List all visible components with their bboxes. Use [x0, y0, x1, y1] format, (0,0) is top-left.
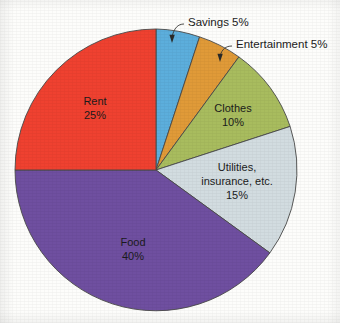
pie-label-rent-name: Rent	[83, 95, 106, 107]
pie-label-clothes-value: 10%	[222, 116, 244, 128]
pie-callout-entertainment: Entertainment 5%	[236, 38, 327, 50]
pie-label-utilities-line2: insurance, etc.	[201, 175, 273, 187]
pie-label-utilities-line1: Utilities,	[218, 161, 257, 173]
pie-callout-savings: Savings 5%	[188, 16, 249, 28]
pie-chart-svg: Rent 25% Clothes 10% Utilities, insuranc…	[0, 0, 340, 323]
pie-chart-figure: Rent 25% Clothes 10% Utilities, insuranc…	[0, 0, 340, 323]
pie-label-utilities-value: 15%	[226, 189, 248, 201]
pie-label-food-name: Food	[120, 236, 145, 248]
pie-label-clothes-name: Clothes	[214, 102, 252, 114]
pie-label-food-value: 40%	[122, 250, 144, 262]
pie-label-rent-value: 25%	[84, 109, 106, 121]
